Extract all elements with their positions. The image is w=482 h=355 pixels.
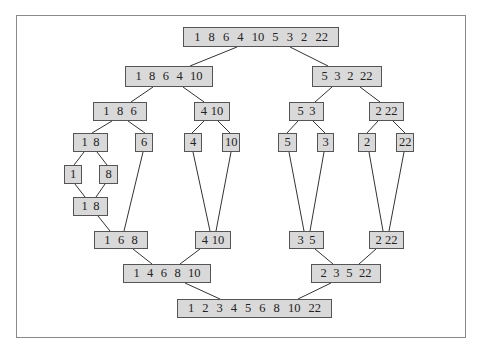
array-value: 22 (308, 302, 321, 315)
array-value: 6 (161, 267, 167, 280)
array-value: 5 (272, 31, 278, 44)
array-value: 4 (176, 70, 182, 83)
edge-n7-n15 (74, 152, 84, 165)
edge-n2-n6 (360, 87, 380, 102)
array-node: 6 (135, 133, 153, 152)
edge-n16-n17 (96, 184, 105, 197)
array-value: 10 (212, 234, 225, 247)
array-value: 22 (385, 234, 398, 247)
array-value: 1 (82, 136, 88, 149)
edge-n8-n18 (124, 152, 143, 231)
edge-n11-n20 (289, 152, 304, 231)
array-node: 18641053222 (183, 27, 339, 47)
edge-n1-n4 (183, 87, 204, 102)
array-value: 1 (82, 200, 88, 213)
edge-n18-n22 (133, 249, 152, 264)
array-value: 3 (334, 70, 340, 83)
array-value: 5 (284, 136, 290, 149)
array-node: 53 (289, 102, 324, 121)
array-value: 5 (346, 267, 352, 280)
array-node: 222 (369, 231, 404, 249)
array-node: 23522 (311, 264, 381, 283)
array-value: 5 (309, 234, 315, 247)
array-value: 6 (259, 302, 265, 315)
array-node: 5 (278, 133, 297, 152)
edge-n22-n24 (185, 283, 220, 299)
array-value: 1 (104, 234, 110, 247)
array-value: 10 (188, 267, 201, 280)
array-node: 186410 (125, 66, 213, 87)
array-value: 3 (298, 234, 304, 247)
array-node: 146810 (123, 264, 211, 283)
array-node: 10 (222, 133, 240, 152)
array-value: 1 (194, 31, 200, 44)
edge-n6-n14 (393, 121, 405, 133)
edge-n14-n21 (389, 152, 404, 231)
edge-n0-n1 (190, 47, 237, 66)
edge-n3-n8 (128, 121, 145, 133)
array-value: 22 (360, 70, 373, 83)
edge-n7-n16 (97, 152, 107, 165)
array-value: 4 (201, 105, 207, 118)
array-node: 2 (358, 133, 376, 152)
array-value: 1 (188, 302, 194, 315)
array-value: 5 (322, 70, 328, 83)
array-value: 5 (298, 105, 304, 118)
array-value: 4 (237, 31, 243, 44)
array-value: 6 (163, 70, 169, 83)
edge-n19-n22 (180, 249, 200, 264)
array-value: 2 (375, 234, 381, 247)
array-value: 1 (103, 105, 109, 118)
array-value: 3 (217, 302, 223, 315)
array-value: 8 (117, 105, 123, 118)
edge-n21-n23 (359, 249, 376, 264)
array-node: 186 (93, 102, 147, 121)
array-value: 4 (190, 136, 196, 149)
edge-n4-n10 (218, 121, 230, 133)
array-value: 22 (385, 105, 398, 118)
edge-n5-n12 (313, 121, 325, 133)
array-value: 10 (211, 105, 224, 118)
edge-n5-n11 (287, 121, 298, 133)
array-value: 22 (315, 31, 328, 44)
array-node: 35 (289, 231, 324, 249)
array-value: 6 (141, 136, 147, 149)
array-value: 10 (252, 31, 265, 44)
array-value: 8 (93, 136, 99, 149)
array-value: 10 (225, 136, 238, 149)
edge-n12-n20 (310, 152, 324, 231)
array-node: 18 (73, 133, 108, 152)
array-value: 10 (190, 70, 203, 83)
array-value: 8 (149, 70, 155, 83)
array-value: 8 (105, 168, 111, 181)
array-value: 2 (321, 267, 327, 280)
array-value: 2 (375, 105, 381, 118)
edge-n2-n5 (315, 87, 332, 102)
array-value: 2 (347, 70, 353, 83)
array-value: 5 (245, 302, 251, 315)
array-value: 2 (202, 302, 208, 315)
edge-n17-n18 (98, 216, 110, 231)
array-value: 3 (322, 136, 328, 149)
array-value: 1 (133, 267, 139, 280)
array-value: 8 (174, 267, 180, 280)
array-node: 410 (194, 102, 230, 121)
array-node: 410 (195, 231, 231, 249)
array-value: 8 (131, 234, 137, 247)
edge-n13-n21 (369, 152, 383, 231)
array-node: 22 (396, 133, 414, 152)
array-value: 2 (364, 136, 370, 149)
array-node: 3 (317, 133, 334, 152)
array-value: 8 (209, 31, 215, 44)
array-value: 8 (93, 200, 99, 213)
array-value: 4 (231, 302, 237, 315)
edge-n23-n24 (298, 283, 331, 299)
array-value: 6 (223, 31, 229, 44)
edge-n1-n3 (131, 87, 153, 102)
array-node: 12345681022 (177, 299, 332, 318)
edge-n9-n19 (193, 152, 210, 231)
array-value: 3 (287, 31, 293, 44)
array-node: 168 (94, 231, 148, 249)
array-value: 3 (309, 105, 315, 118)
array-value: 22 (399, 136, 412, 149)
